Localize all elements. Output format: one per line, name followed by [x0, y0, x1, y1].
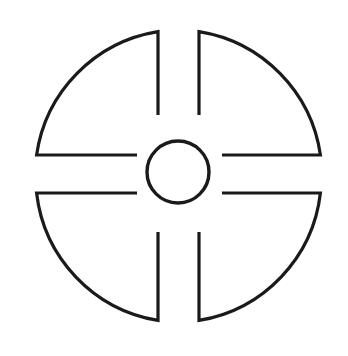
quadrant-lower-right	[199, 193, 320, 320]
quadrant-upper-right	[199, 32, 320, 155]
figure-canvas: Crosshair Reticle Line Drawing Black out…	[0, 0, 348, 356]
quadrant-lower-left	[37, 193, 158, 320]
center-circle	[147, 141, 209, 203]
reticle-drawing: Crosshair Reticle Line Drawing Black out…	[0, 0, 348, 356]
quadrant-upper-left	[37, 32, 158, 155]
